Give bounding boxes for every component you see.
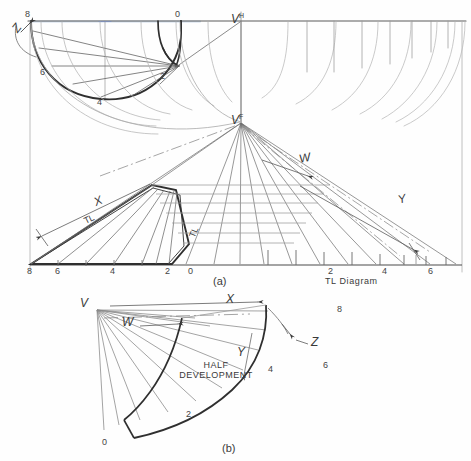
half-development-line2: DEVELOPMENT: [171, 371, 261, 380]
front-view-label-w: W: [298, 151, 312, 165]
tl-diagram-label-2: 2: [328, 267, 333, 276]
true-length-swing-arcs: [31, 22, 232, 134]
development-label-0: 0: [102, 438, 107, 447]
development-label-w: W: [122, 316, 133, 328]
minor-swing-arc: [180, 22, 241, 122]
development-z-arc: [268, 308, 288, 334]
front-baseline-label-4: 4: [110, 267, 115, 276]
tl-diagram-label-6: 6: [428, 267, 433, 276]
development-z-leader: [296, 340, 308, 344]
tl-diagram-ticks: [268, 250, 446, 265]
development-top-chord: [182, 305, 266, 318]
dimension-line-x: [42, 184, 150, 236]
top-view-label-8: 8: [25, 10, 30, 19]
caption-a: (a): [213, 276, 226, 287]
top-view-label-4: 4: [97, 98, 102, 107]
dimension-y-terminator: [409, 243, 420, 260]
development-label-v: V: [80, 297, 88, 309]
apex-label-vh: VH: [231, 12, 244, 25]
top-view-label-0: 0: [175, 10, 180, 19]
development-label-z: Z: [311, 336, 318, 348]
development-label-y: Y: [237, 346, 245, 358]
front-baseline-label-6: 6: [55, 267, 60, 276]
development-label-2: 2: [186, 410, 191, 419]
technical-drawing-svg: [0, 0, 471, 461]
top-view-label-2: 2: [160, 72, 165, 81]
caption-b: (b): [222, 443, 235, 454]
front-baseline-label-0: 0: [188, 267, 193, 276]
front-baseline-label-2: 2: [165, 267, 170, 276]
front-view-outline: [31, 185, 189, 264]
right-swing-arcs: [262, 22, 465, 126]
development-z-arrow: [282, 324, 290, 334]
development-label-4: 4: [268, 365, 273, 374]
tl-diagram-caption: TL Diagram: [325, 277, 378, 286]
top-view-element-lines: [33, 31, 179, 97]
drawing-sheet: 8 6 4 2 0 Z VH VF X TL TL W Y 8 6 4 2 0 …: [0, 0, 471, 461]
development-label-6: 6: [323, 361, 328, 370]
front-view-element-lines: [31, 185, 177, 264]
half-development-line1: HALF: [186, 361, 246, 370]
development-edge-0: [124, 420, 134, 438]
development-label-8: 8: [337, 305, 342, 314]
development-dimension-x: [110, 302, 258, 306]
dimension-x-terminator: [36, 229, 48, 246]
top-view-label-6: 6: [40, 68, 45, 77]
apex-label-vf: VF: [231, 113, 243, 126]
front-baseline-label-8: 8: [27, 267, 32, 276]
tl-diagram-label-4: 4: [382, 267, 387, 276]
front-view-inner-outline: [31, 188, 184, 264]
development-label-x: X: [226, 293, 234, 305]
